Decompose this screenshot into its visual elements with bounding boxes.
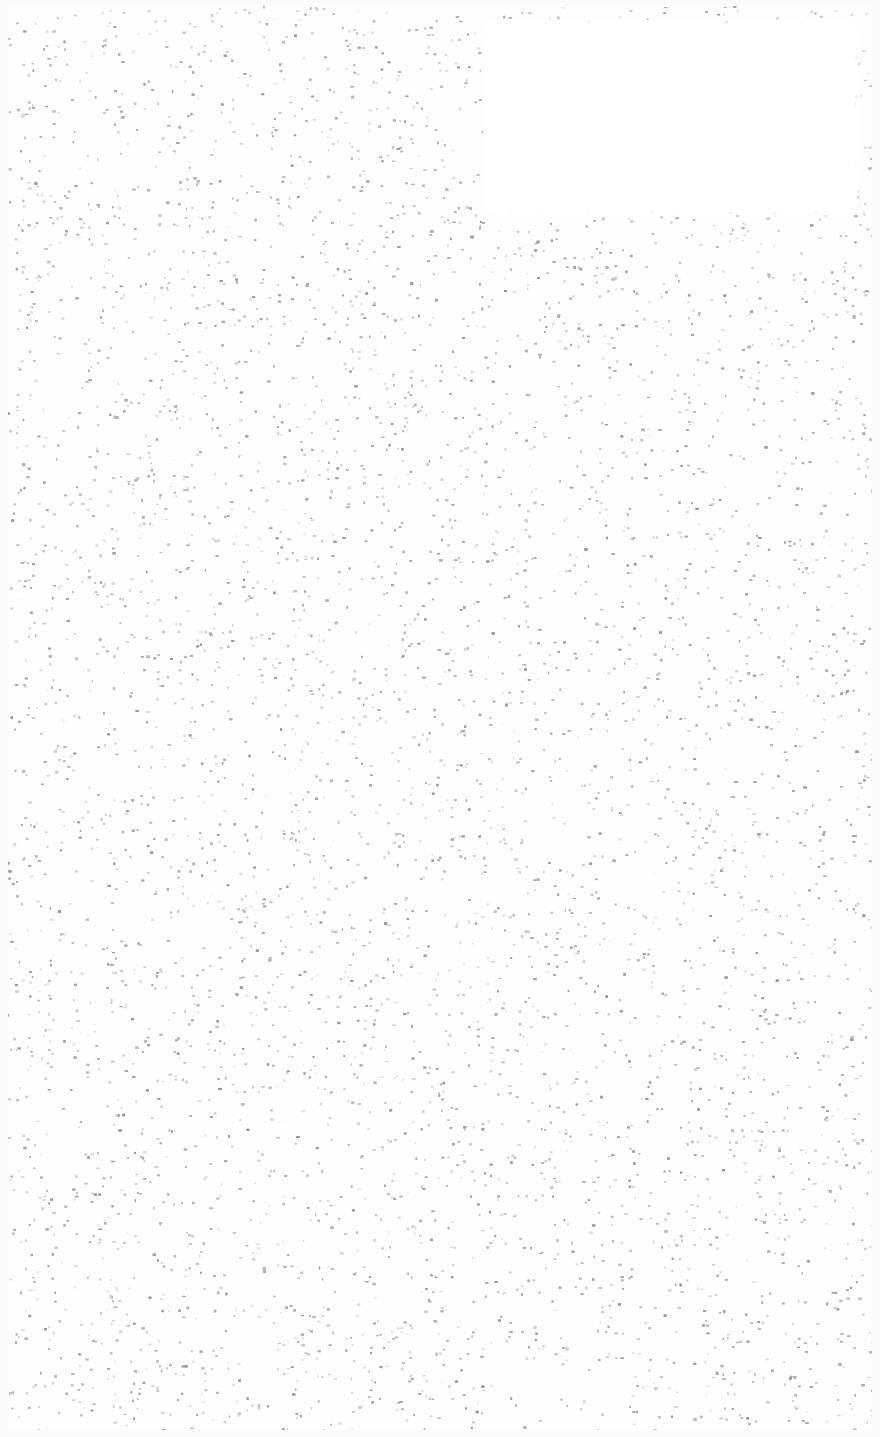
speckle-texture-background: [8, 6, 872, 1430]
speckle-canvas: [8, 6, 872, 1430]
blank-white-panel: [487, 24, 855, 212]
textured-page: [0, 0, 880, 1437]
